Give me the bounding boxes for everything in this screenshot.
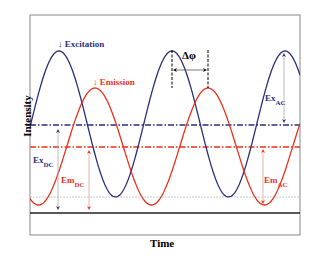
emission-label: ↓ Emission: [93, 77, 135, 87]
ex-dc-label: ExDC: [33, 155, 54, 169]
phase-label: Δφ: [182, 49, 196, 61]
em-ac-label: EmAC: [264, 175, 288, 189]
ex-ac-label: ExAC: [265, 93, 286, 107]
frequency-domain-diagram: Δφ ↓ Excitation ↓ Emission ExAC ExDC EmD…: [0, 0, 314, 256]
em-dc-label: EmDC: [61, 175, 85, 189]
excitation-label: ↓ Excitation: [58, 39, 104, 49]
x-axis-label: Time: [150, 237, 174, 249]
y-axis-label: Intensity: [21, 91, 33, 141]
